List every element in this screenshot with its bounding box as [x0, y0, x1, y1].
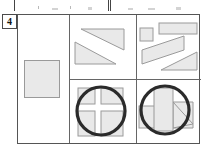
smudge-mark: [128, 8, 133, 10]
shape-grid-panel: [17, 14, 200, 144]
left-cell: [18, 15, 69, 144]
top-middle-shapes: [70, 15, 136, 79]
smudge-mark: [52, 8, 58, 10]
smudge-mark: [176, 7, 181, 10]
square: [24, 60, 60, 98]
top-middle-cell: [70, 15, 136, 79]
figure-index-label: 4: [2, 14, 17, 29]
tick-mark: [70, 6, 71, 9]
cropped-panel-right: [110, 0, 201, 11]
vertical-rectangle: [154, 88, 173, 131]
bottom-right-shapes: [137, 80, 201, 144]
tick-mark: [38, 6, 39, 9]
figure-root: 4: [0, 0, 201, 145]
bottom-right-cell: [137, 80, 201, 144]
triangle-upper: [81, 29, 124, 50]
bottom-middle-shapes: [70, 80, 136, 144]
smudge-mark: [148, 8, 155, 10]
cropped-panel-left: [14, 0, 109, 11]
top-right-cell: [137, 15, 201, 79]
smudge-mark: [88, 7, 92, 10]
wide-rectangle: [159, 23, 197, 34]
cropped-panels-above: [0, 0, 201, 11]
small-square: [140, 28, 153, 41]
bottom-middle-cell: [70, 80, 136, 144]
triangle-lower: [75, 42, 116, 64]
top-right-shapes: [137, 15, 201, 79]
